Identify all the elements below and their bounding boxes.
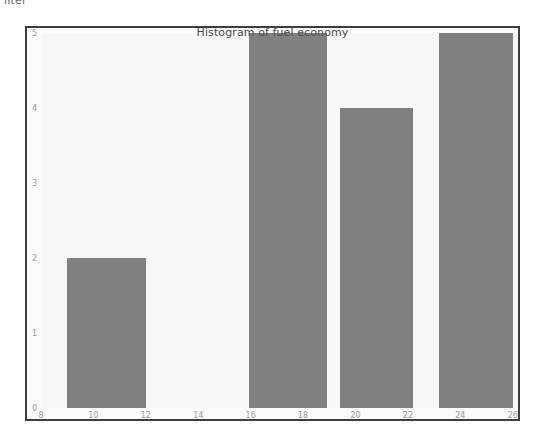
y-tick-label: 4 [32, 104, 37, 113]
x-tick-label: 18 [298, 411, 308, 420]
x-tick-label: 8 [38, 411, 43, 420]
x-tick-label: 20 [350, 411, 360, 420]
x-tick-label: 26 [508, 411, 518, 420]
clipped-top-text: ilter [4, 0, 50, 7]
x-tick-label: 16 [246, 411, 256, 420]
y-tick-label: 3 [32, 179, 37, 188]
chart-title: Histogram of fuel economy [27, 26, 518, 39]
x-tick-label: 22 [403, 411, 413, 420]
plot-area: 012345 8101214161820222426 [41, 33, 518, 408]
x-tick-label: 24 [455, 411, 465, 420]
histogram-bar [340, 108, 413, 408]
x-tick-label: 10 [88, 411, 98, 420]
histogram-bar [249, 33, 326, 408]
histogram-bar [439, 33, 512, 408]
x-tick-label: 14 [193, 411, 203, 420]
x-tick-label: 12 [141, 411, 151, 420]
y-tick-label: 2 [32, 254, 37, 263]
histogram-bar [67, 258, 146, 408]
screenshot-page: ilter Histogram of fuel economy 012345 8… [0, 0, 541, 439]
y-tick-label: 1 [32, 329, 37, 338]
y-tick-label: 0 [32, 404, 37, 413]
chart-figure-frame: Histogram of fuel economy 012345 8101214… [25, 26, 520, 421]
